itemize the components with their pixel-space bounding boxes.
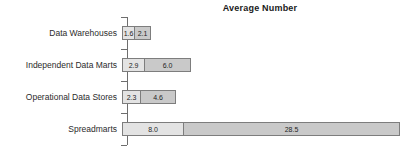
- bar-track: 8.0 28.5: [122, 113, 410, 145]
- chart-row: Spreadmarts 8.0 28.5: [0, 113, 410, 145]
- chart-title: Average Number: [0, 3, 410, 13]
- bar-track: 1.6 2.1: [122, 17, 410, 49]
- category-label: Independent Data Marts: [0, 61, 122, 70]
- bar-stack: 2.3 4.6: [122, 90, 176, 104]
- bar-value-label: 4.6: [153, 94, 163, 101]
- chart-row: Data Warehouses 1.6 2.1: [0, 17, 410, 49]
- bar-stack: 8.0 28.5: [122, 122, 400, 136]
- chart-row: Independent Data Marts 2.9 6.0: [0, 49, 410, 81]
- bar-segment-2: 6.0: [144, 58, 191, 72]
- bar-track: 2.3 4.6: [122, 81, 410, 113]
- bar-value-label: 2.1: [138, 30, 148, 37]
- category-label: Spreadmarts: [0, 125, 122, 134]
- bar-segment-1: 2.9: [122, 58, 145, 72]
- bar-segment-2: 4.6: [140, 90, 176, 104]
- bar-value-label: 2.9: [129, 62, 139, 69]
- bar-value-label: 28.5: [285, 126, 299, 133]
- bar-value-label: 2.3: [127, 94, 137, 101]
- bar-chart: Average Number Data Warehouses 1.6 2.1 I…: [0, 0, 410, 153]
- bar-value-label: 6.0: [163, 62, 173, 69]
- bar-value-label: 8.0: [148, 126, 158, 133]
- bar-segment-2: 28.5: [183, 122, 400, 136]
- axis-tick-4: [121, 145, 127, 146]
- bar-segment-1: 2.3: [122, 90, 141, 104]
- chart-row: Operational Data Stores 2.3 4.6: [0, 81, 410, 113]
- bar-stack: 1.6 2.1: [122, 26, 151, 40]
- bar-segment-2: 2.1: [134, 26, 151, 40]
- bar-track: 2.9 6.0: [122, 49, 410, 81]
- bar-stack: 2.9 6.0: [122, 58, 191, 72]
- category-label: Operational Data Stores: [0, 93, 122, 102]
- bar-segment-1: 8.0: [122, 122, 184, 136]
- category-label: Data Warehouses: [0, 29, 122, 38]
- bar-value-label: 1.6: [124, 30, 134, 37]
